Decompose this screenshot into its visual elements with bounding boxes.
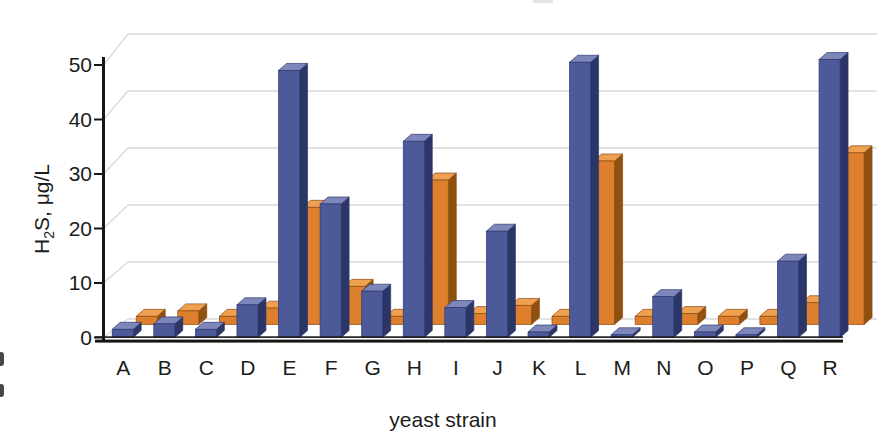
y-axis-title: H2S, μg/L [29,130,55,288]
bar-blue-K [528,325,557,337]
bar-blue-Q [777,254,806,337]
gridline-slant-20 [104,205,129,229]
category-label-K: K [518,355,560,381]
bar-blue-L [570,55,599,337]
category-label-E: E [269,355,311,381]
bar-blue-R [819,53,848,338]
bar-blue-J [486,224,515,337]
scan-artifact-left-2 [0,384,4,397]
bar-blue-M [611,328,640,338]
x-axis-line-lower [95,340,843,343]
y-tick-label-0: 0 [50,326,92,350]
category-label-D: D [227,355,269,381]
category-label-M: M [601,355,643,381]
bar-blue-N [653,290,682,338]
x-axis-title: yeast strain [363,407,523,433]
bar-blue-D [237,298,266,338]
bar-blue-P [736,328,765,338]
bar-blue-B [154,317,183,338]
category-label-L: L [560,355,602,381]
category-label-O: O [684,355,726,381]
bar-blue-G [362,284,391,337]
y-axis-title-prefix: H [30,239,53,254]
category-label-R: R [809,355,851,381]
y-tick-label-40: 40 [50,108,92,132]
category-label-N: N [643,355,685,381]
cropped-legend-artifact [533,0,553,3]
bar-blue-F [320,197,349,338]
gridline-slant-10 [104,262,129,283]
bar-chart-figure: H2S, μg/L yeast strain 01020304050 ABCDE… [0,0,888,447]
category-label-G: G [352,355,394,381]
category-label-B: B [144,355,186,381]
y-tick-label-30: 30 [50,162,92,186]
category-label-Q: Q [767,355,809,381]
gridline-slant-40 [104,91,129,120]
category-label-I: I [435,355,477,381]
bar-blue-O [694,325,723,337]
x-axis-line-upper [95,336,843,338]
gridline-slant-30 [104,148,129,174]
category-label-C: C [185,355,227,381]
y-tick-label-10: 10 [50,271,92,295]
bar-blue-H [403,134,432,337]
gridline-slant-50 [104,34,129,65]
y-tick-label-50: 50 [50,53,92,77]
category-label-A: A [102,355,144,381]
y-tick-label-20: 20 [50,217,92,241]
bar-blue-E [279,63,308,337]
category-label-H: H [393,355,435,381]
bar-orange-O [718,309,747,324]
scan-artifact-left-1 [0,352,4,366]
bar-blue-C [195,322,224,337]
category-label-J: J [476,355,518,381]
y-axis-line [102,57,105,341]
category-label-P: P [726,355,768,381]
category-label-F: F [310,355,352,381]
bar-blue-I [445,301,474,338]
bar-blue-A [112,322,141,337]
